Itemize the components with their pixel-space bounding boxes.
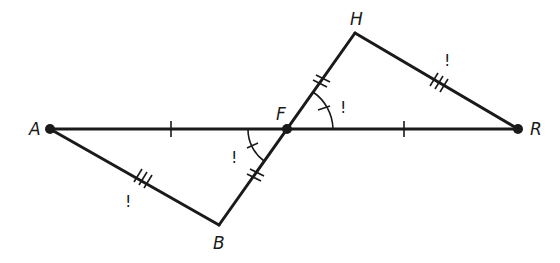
point-r <box>513 124 523 134</box>
angle-arc-afb <box>248 129 264 161</box>
point-a <box>45 124 55 134</box>
bang-angle-afb: ! <box>231 148 237 167</box>
label-h: H <box>350 9 363 29</box>
bang-ab: ! <box>125 192 131 211</box>
point-f <box>282 124 292 134</box>
label-r: R <box>530 119 542 139</box>
label-f: F <box>276 104 286 124</box>
segment-ab <box>50 129 219 225</box>
segment-hr <box>355 33 518 129</box>
geometry-diagram: A F R H B ! ! ! ! <box>0 0 560 263</box>
angle-arc-rfh <box>313 92 333 129</box>
triple-tick-hr <box>430 73 448 92</box>
label-a: A <box>28 119 41 139</box>
bang-hr: ! <box>444 51 450 70</box>
label-b: B <box>213 233 225 253</box>
bang-angle-rfh: ! <box>340 98 346 117</box>
